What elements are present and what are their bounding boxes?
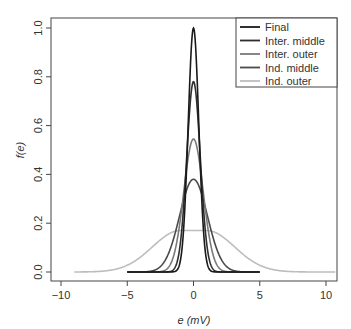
legend-label: Ind. outer bbox=[265, 75, 312, 87]
legend-label: Ind. middle bbox=[265, 62, 319, 74]
x-tick-label: 5 bbox=[257, 289, 263, 301]
x-tick-label: −10 bbox=[52, 289, 71, 301]
y-tick-label: 0.8 bbox=[32, 69, 44, 84]
x-tick-label: −5 bbox=[121, 289, 134, 301]
x-axis: −10−50510 bbox=[52, 281, 332, 301]
y-tick-label: 0.2 bbox=[32, 216, 44, 231]
y-tick-label: 0.4 bbox=[32, 167, 44, 182]
series-ind-middle bbox=[127, 179, 260, 272]
y-tick-label: 0.0 bbox=[32, 264, 44, 279]
x-tick-label: 10 bbox=[320, 289, 332, 301]
density-chart: −10−50510 0.00.20.40.60.81.0 e (mV) f(e)… bbox=[0, 0, 351, 329]
series-inter-middle bbox=[127, 82, 260, 272]
legend-label: Inter. outer bbox=[265, 48, 318, 60]
x-axis-label: e (mV) bbox=[178, 314, 211, 326]
y-axis: 0.00.20.40.60.81.0 bbox=[32, 20, 51, 279]
x-tick-label: 0 bbox=[190, 289, 196, 301]
y-tick-label: 0.6 bbox=[32, 118, 44, 133]
y-axis-label: f(e) bbox=[14, 141, 26, 158]
legend-label: Final bbox=[265, 21, 289, 33]
y-tick-label: 1.0 bbox=[32, 20, 44, 35]
legend: FinalInter. middleInter. outerInd. middl… bbox=[236, 18, 337, 87]
legend-label: Inter. middle bbox=[265, 35, 325, 47]
